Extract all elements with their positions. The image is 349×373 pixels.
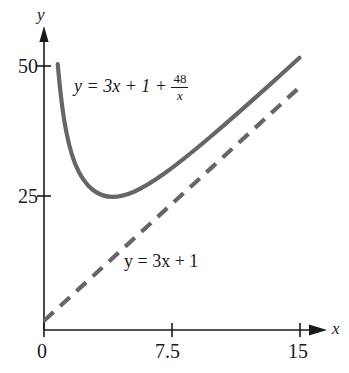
fraction-numerator: 48 (171, 72, 188, 86)
y-axis-label: y (37, 6, 45, 23)
curve-equation-text: y = 3x + 1 + (74, 76, 171, 96)
x-tick-label-7-5: 7.5 (155, 341, 180, 361)
curve-equation-fraction: 48 x (171, 72, 188, 102)
y-axis-arrowhead (39, 26, 48, 42)
plot-area (0, 0, 349, 373)
fraction-denominator: x (171, 89, 188, 103)
asymptote-equation-label: y = 3x + 1 (124, 252, 198, 270)
y-tick-label-25: 25 (18, 186, 38, 206)
y-tick-label-50: 50 (18, 56, 38, 76)
function-graph-figure: y x 50 25 0 7.5 15 y = 3x + 1 + 48 x y =… (0, 0, 349, 373)
x-axis-arrowhead (309, 325, 327, 336)
x-axis-label: x (332, 320, 340, 337)
x-tick-label-0: 0 (37, 341, 47, 361)
asymptote-dashed-line (44, 87, 300, 321)
curve-equation-label: y = 3x + 1 + 48 x (74, 73, 188, 103)
x-tick-label-15: 15 (288, 341, 308, 361)
